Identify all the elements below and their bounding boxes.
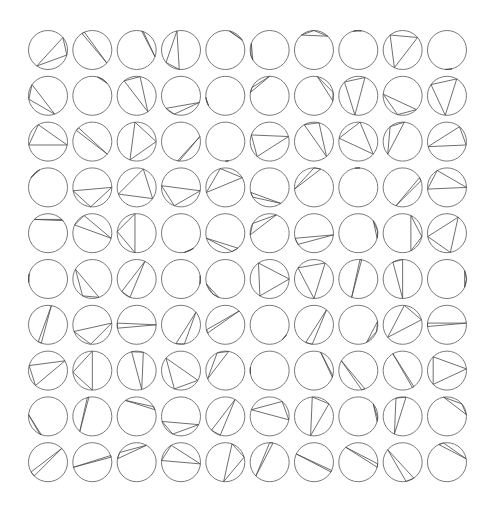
- background: [0, 0, 497, 515]
- inscribed-triangle: [353, 31, 361, 32]
- inscribed-triangle: [200, 276, 201, 284]
- circle-triangle-grid: [0, 0, 497, 515]
- inscribed-triangle: [29, 274, 30, 282]
